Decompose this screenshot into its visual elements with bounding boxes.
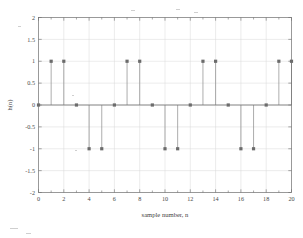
data-point-marker [163, 147, 166, 150]
data-point-marker [88, 147, 91, 150]
data-point-marker [201, 60, 204, 63]
y-tick-label: 1.5 [27, 36, 35, 43]
data-point-marker [214, 60, 217, 63]
data-point-marker [138, 60, 141, 63]
data-point-marker [50, 60, 53, 63]
y-tick-label: -2 [30, 189, 35, 196]
data-point-marker [239, 147, 242, 150]
data-point-marker [125, 60, 128, 63]
x-tick-label: 6 [113, 195, 116, 202]
x-tick-label: 8 [138, 195, 141, 202]
x-tick-label: 0 [37, 195, 40, 202]
x-axis-title: sample number, n [142, 211, 189, 218]
y-tick-label: 0 [32, 101, 35, 108]
y-tick-label: -1 [30, 145, 35, 152]
x-tick-label: 14 [213, 195, 219, 202]
figure-background [0, 0, 303, 238]
data-point-marker [176, 147, 179, 150]
x-tick-label: 10 [162, 195, 168, 202]
data-point-marker [277, 60, 280, 63]
y-axis-title: h(n) [6, 100, 14, 111]
y-tick-label: 1 [32, 57, 35, 64]
data-point-marker [100, 147, 103, 150]
y-tick-label: -1.5 [25, 167, 35, 174]
x-tick-label: 2 [62, 195, 65, 202]
plot-canvas: 02468101214161820 -2-1.5-1-0.500.511.52 … [0, 0, 303, 238]
x-tick-label: 18 [263, 195, 269, 202]
x-tick-label: 20 [288, 195, 294, 202]
data-point-marker [252, 147, 255, 150]
x-tick-label: 12 [187, 195, 193, 202]
data-point-marker [62, 60, 65, 63]
y-tick-label: 2 [32, 14, 35, 21]
y-tick-label: 0.5 [27, 79, 35, 86]
x-tick-label: 4 [88, 195, 91, 202]
stem-plot-figure: 02468101214161820 -2-1.5-1-0.500.511.52 … [0, 0, 303, 238]
x-tick-label: 16 [238, 195, 244, 202]
y-tick-label: -0.5 [25, 123, 35, 130]
